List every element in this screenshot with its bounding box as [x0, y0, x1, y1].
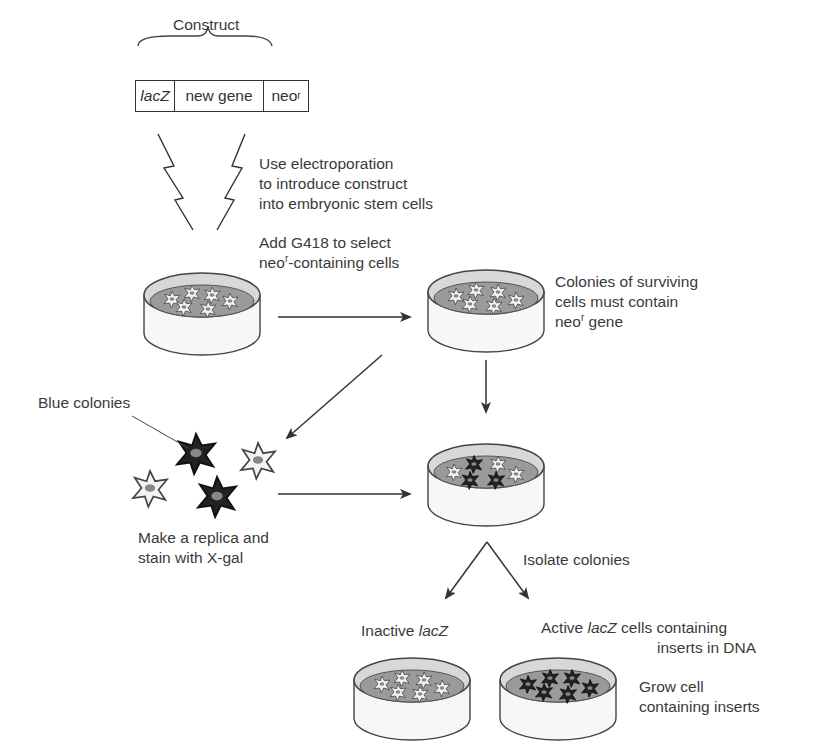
segment-new-gene: new gene	[174, 81, 263, 111]
label-blue-colonies: Blue colonies	[38, 393, 130, 413]
label-inactive-lacz: Inactive lacZ	[361, 621, 448, 641]
petri-dish-mixed	[428, 444, 544, 526]
construct-title: Construct	[173, 15, 239, 35]
label-surviving-3: neor gene	[555, 312, 623, 332]
label-electroporation-1: Use electroporation	[259, 154, 393, 174]
label-grow-1: Grow cell	[639, 677, 704, 697]
petri-dish-initial	[144, 273, 260, 355]
label-select-1: Add G418 to select	[259, 233, 391, 253]
arrow-to-active	[487, 542, 528, 598]
label-electroporation-3: into embryonic stem cells	[259, 194, 433, 214]
construct-box: lacZ new gene neor	[135, 80, 309, 112]
petri-dish-surviving	[428, 270, 544, 352]
label-active-lacz-1: Active lacZ cells containing	[541, 618, 727, 638]
arrow-to-replica	[287, 355, 382, 438]
replica-colonies	[133, 434, 275, 517]
label-replica-2: stain with X-gal	[138, 548, 243, 568]
label-select-2: neor-containing cells	[259, 253, 399, 273]
label-grow-2: containing inserts	[639, 697, 760, 717]
arrow-to-inactive	[446, 542, 487, 598]
blue-colonies-pointer	[132, 416, 188, 448]
label-isolate-colonies: Isolate colonies	[523, 550, 630, 570]
lightning-bolt-left	[158, 134, 193, 230]
lightning-bolt-right	[217, 134, 245, 230]
label-surviving-1: Colonies of surviving	[555, 272, 698, 292]
label-replica-1: Make a replica and	[138, 528, 269, 548]
label-surviving-2: cells must contain	[555, 292, 678, 312]
segment-neo: neor	[263, 81, 308, 111]
segment-lacz: lacZ	[136, 81, 174, 111]
petri-dish-active-lacz	[500, 658, 616, 740]
label-electroporation-2: to introduce construct	[259, 174, 407, 194]
label-active-lacz-2: inserts in DNA	[657, 638, 756, 658]
petri-dish-inactive-lacz	[354, 658, 470, 740]
